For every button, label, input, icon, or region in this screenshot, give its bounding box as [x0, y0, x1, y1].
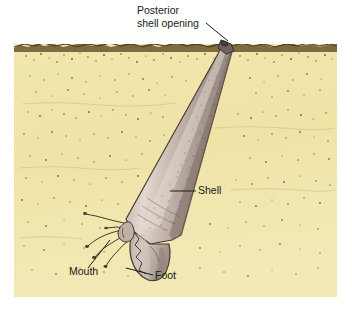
label-posterior-shell-opening-line2: shell opening	[137, 17, 199, 29]
label-foot: Foot	[155, 269, 176, 281]
label-mouth: Mouth	[69, 265, 98, 277]
label-posterior-shell-opening-line1: Posterior	[137, 4, 180, 16]
leader-posterior-shell-opening	[206, 23, 228, 41]
illustration-figure: Posterior shell opening Shell Mouth Foot	[0, 0, 352, 309]
scaphopod-diagram: Posterior shell opening Shell Mouth Foot	[0, 0, 352, 309]
sand-surface-crust	[14, 42, 337, 52]
label-shell: Shell	[198, 184, 221, 196]
